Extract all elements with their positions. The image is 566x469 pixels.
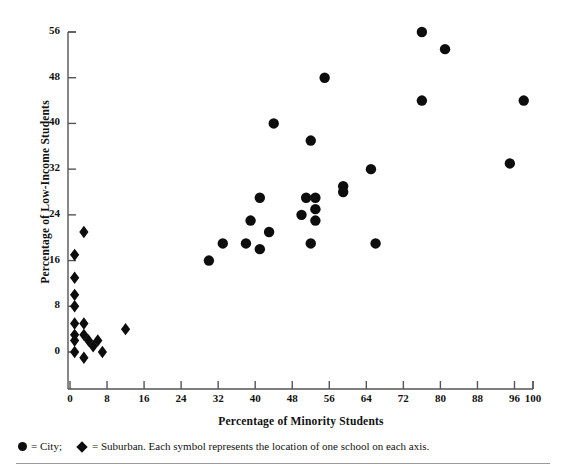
data-point-city (366, 164, 376, 174)
x-tick-label: 16 (129, 392, 159, 404)
data-point-city (296, 210, 306, 220)
series-suburban-points (70, 226, 130, 364)
data-point-suburban (79, 226, 88, 238)
data-point-suburban (70, 249, 79, 261)
data-point-suburban (121, 323, 130, 335)
x-tick-label: 64 (351, 392, 381, 404)
y-tick-label: 32 (30, 161, 60, 173)
data-point-suburban (79, 317, 88, 329)
x-tick-label: 40 (240, 392, 270, 404)
x-tick-label: 88 (462, 392, 492, 404)
x-tick-label: 56 (314, 392, 344, 404)
data-point-suburban (79, 352, 88, 364)
y-tick-label: 0 (30, 344, 60, 356)
data-point-city (255, 193, 265, 203)
data-point-city (255, 244, 265, 254)
legend-city-label: = City; (31, 440, 62, 452)
data-point-city (417, 95, 427, 105)
data-point-suburban (98, 346, 107, 358)
x-tick-label: 24 (166, 392, 196, 404)
y-tick-label: 8 (30, 298, 60, 310)
x-tick-label: 80 (425, 392, 455, 404)
data-point-city (310, 215, 320, 225)
data-point-city (319, 73, 329, 83)
data-point-city (519, 95, 529, 105)
scatter-plot-figure: Percentage of Low-Income Students Percen… (0, 0, 566, 469)
data-point-city (370, 238, 380, 248)
x-axis-title: Percentage of Minority Students (70, 415, 532, 427)
data-point-suburban (70, 317, 79, 329)
data-point-city (417, 27, 427, 37)
legend-suburban-icon (76, 440, 88, 452)
data-point-city (264, 227, 274, 237)
data-point-city (245, 215, 255, 225)
y-tick-label: 16 (30, 253, 60, 265)
x-tick-label: 100 (518, 392, 548, 404)
data-point-city (218, 238, 228, 248)
y-tick-label: 48 (30, 70, 60, 82)
data-point-city (241, 238, 251, 248)
data-point-suburban (70, 346, 79, 358)
data-point-city (204, 255, 214, 265)
data-point-city (301, 193, 311, 203)
legend-city-icon (18, 440, 27, 452)
data-point-suburban (70, 300, 79, 312)
data-point-city (310, 193, 320, 203)
y-tick-label: 24 (30, 207, 60, 219)
x-tick-label: 48 (277, 392, 307, 404)
data-point-city (440, 44, 450, 54)
data-point-city (310, 204, 320, 214)
legend-suburban-label: = Suburban. Each symbol represents the l… (92, 440, 429, 452)
series-city-points (204, 27, 529, 266)
y-tick-label: 40 (30, 115, 60, 127)
data-point-city (306, 135, 316, 145)
data-point-city (505, 158, 515, 168)
data-point-city (269, 118, 279, 128)
x-tick-label: 0 (55, 392, 85, 404)
x-tick-label: 32 (203, 392, 233, 404)
data-point-suburban (70, 272, 79, 284)
x-tick-label: 72 (388, 392, 418, 404)
x-axis-ticks (70, 381, 533, 389)
footer-divider (16, 463, 550, 464)
data-point-city (306, 238, 316, 248)
chart-legend: = City; = Suburban. Each symbol represen… (18, 437, 548, 455)
data-point-city (338, 187, 348, 197)
x-tick-label: 8 (92, 392, 122, 404)
y-tick-label: 56 (30, 24, 60, 36)
data-point-suburban (70, 289, 79, 301)
